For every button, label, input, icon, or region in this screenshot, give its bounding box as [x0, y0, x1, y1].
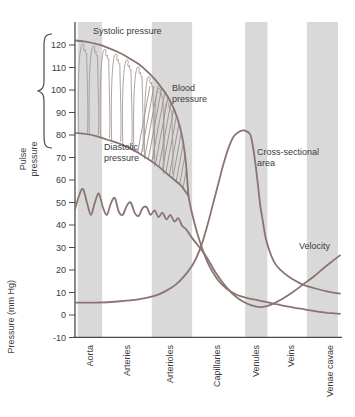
pulse-waveform — [111, 54, 121, 142]
systolic-pressure-label: Systolic pressure — [93, 26, 162, 37]
y-tick-label: 80 — [38, 130, 66, 140]
pulse-waveform — [134, 67, 144, 152]
grey-band-venules — [245, 22, 267, 337]
diastolic-pressure-label: Diastolic pressure — [104, 142, 150, 164]
y-tick-label: -10 — [38, 333, 66, 343]
x-category-label-aorta: Aorta — [85, 345, 96, 367]
cross-sectional-area-label: Cross-sectional area — [257, 147, 335, 169]
grey-band-arterioles — [152, 22, 192, 337]
x-category-label-venules: Venules — [251, 345, 262, 377]
y-tick-label: 30 — [38, 243, 66, 253]
blood-pressure-label: Blood pressure — [172, 83, 222, 105]
x-category-label-veins: Veins — [286, 345, 297, 367]
y-tick-label: 90 — [38, 108, 66, 118]
x-category-label-arterioles: Arterioles — [165, 345, 176, 383]
y-tick-label: 50 — [38, 198, 66, 208]
y-tick-label: 60 — [38, 175, 66, 185]
pulse-pressure-label: Pulse pressure — [18, 136, 40, 182]
y-tick-label: 100 — [38, 85, 66, 95]
y-tick-label: 120 — [38, 40, 66, 50]
x-category-label-venae-cavae: Venae cavae — [325, 345, 336, 397]
x-category-label-capillaries: Capillaries — [212, 345, 223, 387]
y-tick-label: 0 — [38, 310, 66, 320]
y-tick-label: 70 — [38, 153, 66, 163]
pulse-waveform — [122, 60, 132, 146]
velocity-label: Velocity — [299, 241, 330, 252]
figure: Systolic pressure Diastolic pressure Blo… — [0, 0, 355, 417]
y-tick-label: 20 — [38, 265, 66, 275]
y-tick-label: 110 — [38, 63, 66, 73]
y-axis-title: Pressure (mm Hg) — [6, 280, 17, 354]
x-category-label-arteries: Arteries — [122, 345, 133, 376]
y-tick-label: 40 — [38, 220, 66, 230]
y-tick-label: 10 — [38, 288, 66, 298]
